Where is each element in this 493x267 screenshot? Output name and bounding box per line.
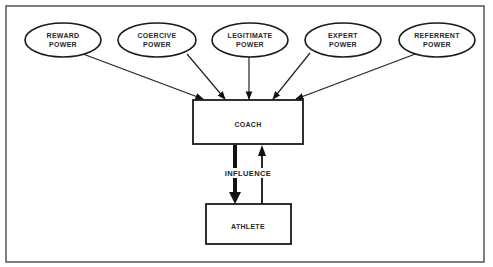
expert-label-line2: POWER: [329, 41, 357, 48]
arrow-reward-to-coach: [83, 54, 203, 99]
arrow-referrent-to-coach: [296, 53, 418, 99]
reward-label-line2: POWER: [49, 41, 77, 48]
ellipse-reward: [25, 23, 101, 57]
ellipse-coercive: [118, 23, 196, 57]
coercive-label-line2: POWER: [143, 41, 171, 48]
coercive-label-line1: COERCIVE: [138, 32, 177, 39]
athlete-label: ATHLETE: [231, 223, 265, 230]
ellipse-expert: [305, 23, 381, 57]
influence-arrows: INFLUENCE: [222, 145, 274, 204]
power-source-legitimate: LEGITIMATE POWER: [212, 23, 288, 57]
influence-label: INFLUENCE: [225, 169, 272, 178]
power-source-referrent: REFERRENT POWER: [399, 23, 475, 57]
ellipse-legitimate: [212, 23, 288, 57]
ellipse-referrent: [399, 23, 475, 57]
arrow-coercive-to-coach: [187, 54, 225, 99]
power-source-coercive: COERCIVE POWER: [118, 23, 196, 57]
coach-node: COACH: [193, 100, 303, 144]
power-arrows: [83, 53, 418, 99]
arrow-expert-to-coach: [273, 53, 310, 99]
athlete-node: ATHLETE: [206, 204, 291, 244]
arrowhead-up-icon: [258, 145, 266, 156]
legitimate-label-line1: LEGITIMATE: [228, 32, 273, 39]
power-source-reward: REWARD POWER: [25, 23, 101, 57]
arrowhead-down-icon: [229, 192, 241, 204]
reward-label-line1: REWARD: [47, 32, 80, 39]
referrent-label-line1: REFERRENT: [414, 32, 460, 39]
expert-label-line1: EXPERT: [328, 32, 358, 39]
referrent-label-line2: POWER: [423, 41, 451, 48]
legitimate-label-line2: POWER: [236, 41, 264, 48]
power-source-expert: EXPERT POWER: [305, 23, 381, 57]
coach-label: COACH: [234, 121, 261, 128]
power-influence-diagram: REWARD POWER COERCIVE POWER LEGITIMATE P…: [0, 0, 493, 267]
